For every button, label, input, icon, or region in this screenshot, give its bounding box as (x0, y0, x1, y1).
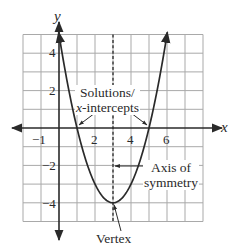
y-tick-label: −2 (42, 159, 56, 172)
y-tick-label: −4 (42, 197, 56, 210)
x-tick-label: 2 (91, 133, 98, 146)
x-axis-label: x (221, 120, 228, 135)
x-tick-label: 4 (127, 133, 134, 146)
solutions-annotation: Solutions/ x-intercepts (75, 85, 140, 115)
solutions-label-line1: Solutions/ (80, 85, 135, 100)
solutions-label-line2: -intercepts (82, 100, 139, 115)
parabola-diagram (0, 0, 239, 250)
axis-sym-label-line1: Axis of (151, 160, 191, 175)
y-axis-label: y (54, 9, 61, 24)
axis-sym-label-line2: symmetry (144, 175, 198, 190)
axis-of-symmetry-annotation: Axis of symmetry (143, 160, 199, 190)
y-tick-label: 2 (49, 84, 56, 97)
y-tick-label: 4 (49, 46, 56, 59)
vertex-label: Vertex (95, 231, 132, 246)
x-tick-label: 6 (163, 133, 170, 146)
x-tick-label: −1 (32, 133, 46, 146)
